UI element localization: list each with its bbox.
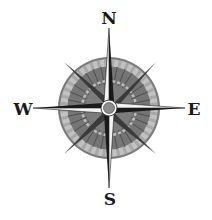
east-label: E: [188, 101, 201, 118]
north-label: N: [101, 10, 117, 27]
south-label: S: [104, 191, 116, 208]
compass-rose: N E S W: [0, 0, 212, 220]
compass-hub: [101, 100, 117, 116]
west-label: W: [13, 101, 32, 118]
